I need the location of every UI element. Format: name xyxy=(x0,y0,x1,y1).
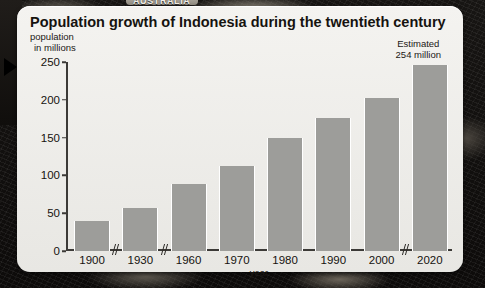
y-tick-mark xyxy=(62,175,66,177)
y-tick-label: 0 xyxy=(54,245,60,257)
axis-break-mark xyxy=(403,244,408,255)
y-tick-label: 50 xyxy=(47,207,60,219)
y-tick-mark xyxy=(62,137,66,139)
x-tick-label: 1930 xyxy=(128,254,154,266)
y-axis-caption-line1: population xyxy=(30,31,74,42)
bar-1990 xyxy=(315,118,351,251)
x-tick-label: 2000 xyxy=(369,254,395,266)
x-tick-label: 1900 xyxy=(79,254,105,266)
y-axis-line xyxy=(66,62,68,251)
bar-1960 xyxy=(171,184,207,251)
y-tick-label: 150 xyxy=(41,132,60,144)
axis-break-mark xyxy=(162,244,167,255)
play-triangle-icon[interactable] xyxy=(4,58,17,76)
bar-1900 xyxy=(74,221,110,251)
x-axis-label: year xyxy=(250,267,268,278)
bar-1970 xyxy=(219,166,255,251)
estimate-annotation-line1: Estimated xyxy=(396,39,441,50)
chart-panel: Population growth of Indonesia during th… xyxy=(17,6,463,272)
x-tick-label: 1970 xyxy=(224,254,250,266)
y-tick-mark xyxy=(62,212,66,214)
y-tick-mark xyxy=(62,99,66,101)
axis-break-mark xyxy=(114,244,119,255)
bar-chart-plot: 050100150200250 190019301960197019801990… xyxy=(66,56,452,252)
y-tick-mark xyxy=(62,61,66,63)
bar-2020 xyxy=(412,65,448,251)
x-tick-label: 1990 xyxy=(321,254,347,266)
y-tick-label: 200 xyxy=(41,94,60,106)
y-tick-mark xyxy=(62,250,66,252)
x-tick-label: 2020 xyxy=(417,254,443,266)
bar-2000 xyxy=(364,98,400,251)
y-axis-caption-line2: in millions xyxy=(34,43,76,54)
x-tick-label: 1960 xyxy=(176,254,202,266)
page-title: Population growth of Indonesia during th… xyxy=(30,14,446,30)
bar-1930 xyxy=(122,208,158,251)
y-axis-caption: population in millions xyxy=(30,32,76,53)
y-tick-label: 100 xyxy=(41,169,60,181)
x-tick-label: 1980 xyxy=(272,254,298,266)
bar-1980 xyxy=(267,138,303,251)
y-tick-label: 250 xyxy=(41,56,60,68)
